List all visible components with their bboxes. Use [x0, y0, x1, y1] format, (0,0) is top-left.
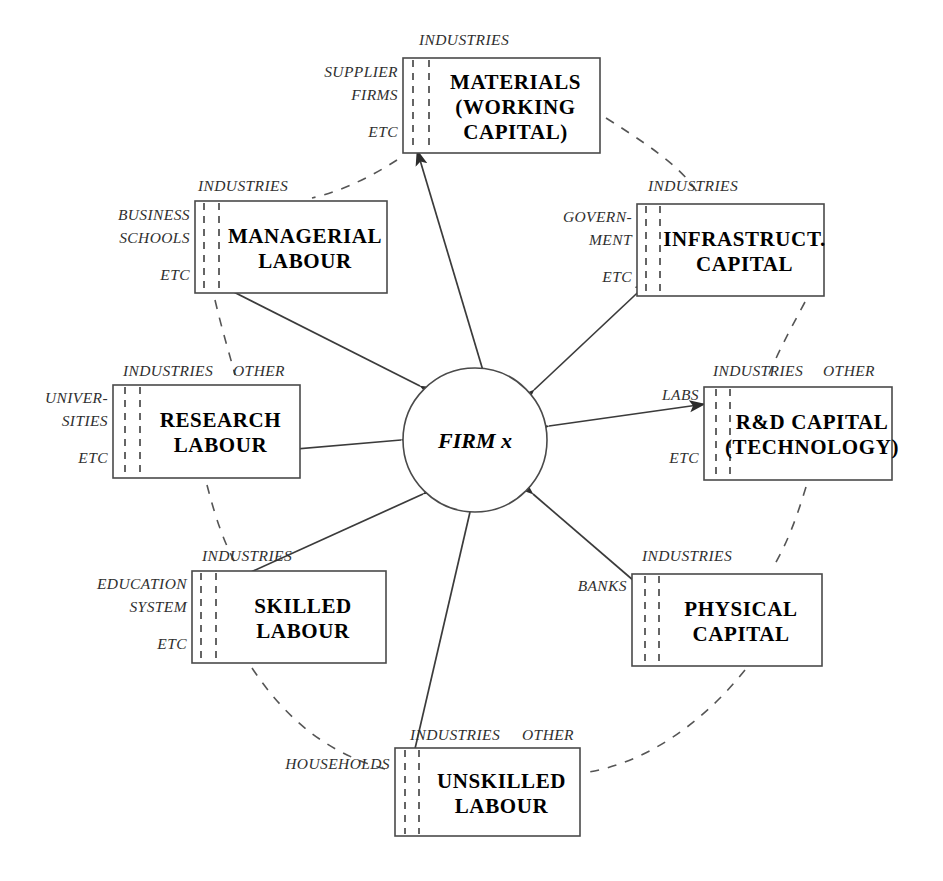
- flow-arrow-rd[interactable]: [549, 404, 705, 426]
- node-unskilled[interactable]: UNSKILLEDLABOURINDUSTRIESOTHERHOUSEHOLDS: [284, 726, 580, 836]
- node-top-label-infrastructure: INDUSTRIES: [647, 177, 738, 194]
- node-skilled[interactable]: SKILLEDLABOURINDUSTRIESEDUCATIONSYSTEMET…: [96, 547, 386, 663]
- node-side-label-skilled: SYSTEM: [129, 598, 187, 615]
- node-side-label-unskilled: HOUSEHOLDS: [284, 755, 390, 772]
- node-side-label-infrastructure: ETC: [601, 268, 632, 285]
- node-side-label-managerial: SCHOOLS: [119, 229, 190, 246]
- node-title-unskilled: LABOUR: [455, 794, 549, 818]
- node-title-physical: CAPITAL: [692, 622, 789, 646]
- node-top-label-research: OTHER: [233, 362, 285, 379]
- node-side-label-rd: LABS: [661, 386, 699, 403]
- node-title-skilled: LABOUR: [256, 619, 350, 643]
- node-title-materials: CAPITAL): [463, 120, 568, 144]
- node-top-label-unskilled: OTHER: [522, 726, 574, 743]
- node-side-label-materials: ETC: [367, 123, 398, 140]
- node-title-infrastructure: CAPITAL: [696, 252, 793, 276]
- node-side-label-managerial: ETC: [159, 266, 190, 283]
- node-title-rd: (TECHNOLOGY): [725, 435, 899, 459]
- arc-materials-managerial: [312, 160, 397, 198]
- arc-rd-physical: [772, 487, 806, 569]
- node-side-label-research: ETC: [77, 449, 108, 466]
- node-infrastructure[interactable]: INFRASTRUCT.CAPITALINDUSTRIESGOVERN-MENT…: [563, 177, 826, 296]
- firm-node[interactable]: FIRM x: [403, 368, 547, 512]
- node-title-unskilled: UNSKILLED: [437, 769, 566, 793]
- node-top-label-materials: INDUSTRIES: [418, 31, 509, 48]
- arc-skilled-unskilled: [252, 668, 385, 769]
- node-title-skilled: SKILLED: [254, 594, 352, 618]
- node-top-label-managerial: INDUSTRIES: [197, 177, 288, 194]
- node-rd[interactable]: R&D CAPITAL(TECHNOLOGY)INDUSTRIESOTHERLA…: [661, 362, 899, 480]
- diagram-canvas: MATERIALS(WORKINGCAPITAL)INDUSTRIESSUPPL…: [0, 0, 943, 881]
- firm-resource-flow-diagram: MATERIALS(WORKINGCAPITAL)INDUSTRIESSUPPL…: [0, 0, 943, 881]
- node-side-label-research: UNIVER-: [45, 389, 108, 406]
- node-title-materials: (WORKING: [455, 95, 575, 119]
- node-top-label-research: INDUSTRIES: [122, 362, 213, 379]
- node-title-managerial: LABOUR: [258, 249, 352, 273]
- node-top-label-physical: INDUSTRIES: [641, 547, 732, 564]
- node-title-materials: MATERIALS: [450, 70, 581, 94]
- node-managerial[interactable]: MANAGERIALLABOURINDUSTRIESBUSINESSSCHOOL…: [118, 177, 387, 293]
- node-side-label-materials: FIRMS: [350, 86, 398, 103]
- node-top-label-unskilled: INDUSTRIES: [409, 726, 500, 743]
- node-side-label-infrastructure: MENT: [588, 231, 633, 248]
- node-title-managerial: MANAGERIAL: [228, 224, 382, 248]
- flow-arrow-materials[interactable]: [417, 150, 490, 394]
- flow-arrow-infrastructure[interactable]: [534, 281, 650, 390]
- node-title-infrastructure: INFRASTRUCT.: [663, 227, 826, 251]
- node-side-label-skilled: ETC: [156, 635, 187, 652]
- arc-physical-unskilled: [589, 670, 745, 772]
- node-side-label-managerial: BUSINESS: [118, 206, 190, 223]
- arc-managerial-research: [215, 300, 235, 375]
- node-materials[interactable]: MATERIALS(WORKINGCAPITAL)INDUSTRIESSUPPL…: [324, 31, 600, 153]
- node-title-research: RESEARCH: [160, 408, 282, 432]
- firm-label: FIRM x: [437, 428, 512, 453]
- node-title-research: LABOUR: [174, 433, 268, 457]
- node-side-label-materials: SUPPLIER: [324, 63, 398, 80]
- node-title-rd: R&D CAPITAL: [736, 410, 889, 434]
- node-side-label-research: SITIES: [62, 412, 108, 429]
- node-side-label-infrastructure: GOVERN-: [563, 208, 632, 225]
- node-side-label-physical: BANKS: [578, 577, 627, 594]
- node-research[interactable]: RESEARCHLABOURINDUSTRIESOTHERUNIVER-SITI…: [45, 362, 300, 478]
- node-top-label-skilled: INDUSTRIES: [201, 547, 292, 564]
- node-side-label-skilled: EDUCATION: [96, 575, 188, 592]
- node-title-physical: PHYSICAL: [684, 597, 797, 621]
- node-side-label-rd: ETC: [668, 449, 699, 466]
- node-top-label-rd: OTHER: [823, 362, 875, 379]
- node-top-label-rd: INDUSTRIES: [712, 362, 803, 379]
